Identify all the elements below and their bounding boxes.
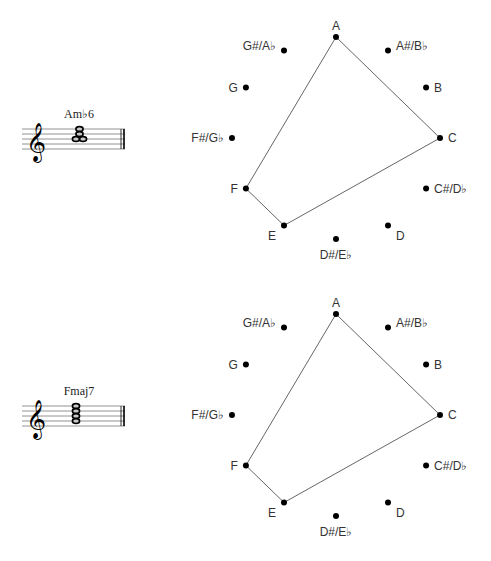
- pitch-dot: [281, 325, 287, 331]
- pitch-label: D#/E♭: [320, 248, 353, 262]
- pitch-label: C#/D♭: [434, 182, 467, 196]
- pitch-dot: [243, 186, 249, 192]
- pitch-label: G#/A♭: [243, 39, 276, 53]
- pitch-dot: [281, 222, 287, 228]
- chord-name: Am♭6: [64, 107, 94, 121]
- pitch-label: B: [434, 358, 442, 372]
- chord-diagram-1: AA#/B♭BCC#/D♭DD#/E♭EFF#/G♭GG#/A♭: [191, 19, 467, 262]
- pitch-dot: [437, 135, 443, 141]
- pitch-dot: [229, 412, 235, 418]
- pitch-dot: [243, 463, 249, 469]
- pitch-dot: [333, 513, 339, 519]
- chord-name: Fmaj7: [64, 384, 95, 398]
- pitch-label: G: [229, 81, 238, 95]
- pitch-dot: [229, 135, 235, 141]
- pitch-label: F#/G♭: [191, 131, 224, 145]
- pitch-label: C: [448, 408, 457, 422]
- pitch-label: G#/A♭: [243, 316, 276, 330]
- chord-polygon: [246, 314, 440, 503]
- staff: 𝄞Am♭6: [22, 107, 125, 163]
- pitch-label: A: [332, 19, 340, 33]
- pitch-label: C: [448, 131, 457, 145]
- pitch-label: E: [268, 506, 276, 520]
- pitch-dot: [333, 311, 339, 317]
- chord-diagram-2: AA#/B♭BCC#/D♭DD#/E♭EFF#/G♭GG#/A♭: [191, 296, 467, 539]
- treble-clef-icon: 𝄞: [26, 398, 46, 440]
- pitch-label: A#/B♭: [396, 39, 428, 53]
- pitch-label: D#/E♭: [320, 525, 353, 539]
- pitch-dot: [243, 85, 249, 91]
- pitch-dot: [385, 499, 391, 505]
- pitch-dot: [437, 412, 443, 418]
- pitch-dot: [385, 325, 391, 331]
- pitch-label: A#/B♭: [396, 316, 428, 330]
- pitch-dot: [423, 362, 429, 368]
- pitch-label: B: [434, 81, 442, 95]
- pitch-dot: [281, 48, 287, 54]
- pitch-label: F#/G♭: [191, 408, 224, 422]
- pitch-label: D: [396, 229, 405, 243]
- pitch-dot: [385, 222, 391, 228]
- pitch-label: F: [231, 459, 238, 473]
- pitch-dot: [423, 85, 429, 91]
- pitch-dot: [281, 499, 287, 505]
- chord-polygon: [246, 37, 440, 226]
- pitch-label: G: [229, 358, 238, 372]
- staff: 𝄞Fmaj7: [22, 384, 125, 440]
- pitch-dot: [423, 186, 429, 192]
- pitch-dot: [423, 463, 429, 469]
- pitch-label: E: [268, 229, 276, 243]
- pitch-dot: [385, 48, 391, 54]
- pitch-class-circle-diagrams: AA#/B♭BCC#/D♭DD#/E♭EFF#/G♭GG#/A♭𝄞Am♭6AA#…: [0, 0, 491, 561]
- pitch-dot: [333, 236, 339, 242]
- treble-clef-icon: 𝄞: [26, 121, 46, 163]
- pitch-label: C#/D♭: [434, 459, 467, 473]
- pitch-dot: [333, 34, 339, 40]
- pitch-label: A: [332, 296, 340, 310]
- pitch-label: D: [396, 506, 405, 520]
- pitch-dot: [243, 362, 249, 368]
- pitch-label: F: [231, 182, 238, 196]
